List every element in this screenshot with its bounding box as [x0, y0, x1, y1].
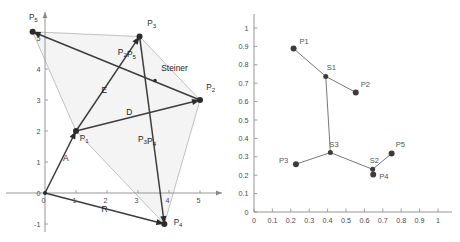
point-S3 [328, 150, 333, 155]
y-tick-label: 0.4 [239, 134, 249, 143]
y-axis-arrow [43, 12, 48, 18]
left-plot-panel: 012345012345-1 P2P5SteinerEDP3P4ARP1P2P3… [0, 0, 230, 242]
x-axis-arrow [216, 191, 222, 196]
label-steiner: Steiner [161, 63, 188, 73]
label-P4: P4 [174, 218, 183, 228]
x-tick-label: 0.1 [267, 216, 277, 225]
right-plot-panel: 00.10.20.30.40.50.60.70.80.9100.10.20.30… [230, 0, 460, 242]
label-d: D [126, 107, 132, 117]
x-tick-label: 0.6 [359, 216, 369, 225]
point-S2 [370, 167, 375, 172]
label-P2: P2 [361, 80, 370, 89]
point-P1 [73, 128, 79, 134]
x-tick-label: 0 [252, 216, 256, 225]
y-tick-label: -1 [34, 220, 40, 229]
left-plot-svg: 012345012345-1 P2P5SteinerEDP3P4ARP1P2P3… [0, 0, 230, 242]
point-P1 [291, 46, 297, 52]
label-a: A [63, 153, 69, 163]
right-axes [254, 14, 452, 212]
x-tick-label: 0.5 [341, 216, 351, 225]
x-tick-label: 4 [166, 196, 170, 205]
label-P5: P5 [396, 140, 405, 149]
label-P5: P5 [29, 13, 38, 23]
y-tick-label: 0.2 [239, 171, 249, 180]
label-P3: P3 [279, 156, 288, 165]
x-tick-label: 5 [197, 196, 201, 205]
point-P3 [293, 161, 299, 167]
right-point-labels: P1P2P3P4P5S1S2S3 [279, 37, 405, 182]
point-P3 [137, 33, 143, 39]
x-tick-label: 0.8 [396, 216, 406, 225]
vector-A [45, 131, 76, 193]
convex-hull-fill [33, 32, 200, 224]
tree-edge-S3-S2 [330, 153, 372, 170]
y-tick-label: 0 [245, 208, 249, 217]
label-P1: P1 [300, 37, 309, 46]
point-P4 [161, 221, 167, 227]
x-tick-label: 0.3 [304, 216, 314, 225]
tree-edge-P1-S1 [294, 49, 326, 77]
y-tick-label: 4 [37, 65, 41, 74]
label-r: R [101, 204, 107, 214]
x-tick-label: 0.2 [286, 216, 296, 225]
label-P4: P4 [379, 172, 388, 181]
steiner-point [153, 79, 156, 82]
tree-edge-S1-P2 [326, 76, 356, 92]
x-tick-label: 0.4 [323, 216, 333, 225]
x-tick-label: 1 [436, 216, 440, 225]
point-P2 [353, 89, 359, 95]
y-tick-label: 2 [37, 127, 41, 136]
label-S3: S3 [329, 140, 338, 149]
right-tick-labels: 00.10.20.30.40.50.60.70.80.9100.10.20.30… [239, 24, 441, 225]
x-tick-label: 2 [104, 196, 108, 205]
y-tick-label: 3 [37, 96, 41, 105]
x-tick-label: 0 [42, 196, 46, 205]
label-P3: P3 [147, 19, 156, 29]
x-tick-label: 0.7 [378, 216, 388, 225]
y-tick-label: 1 [37, 158, 41, 167]
origin-point [43, 191, 47, 195]
y-tick-label: 0.1 [239, 189, 249, 198]
right-plot-svg: 00.10.20.30.40.50.60.70.80.9100.10.20.30… [230, 0, 460, 242]
y-tick-label: 0.7 [239, 79, 249, 88]
label-e: E [101, 85, 107, 95]
y-tick-label: 0.9 [239, 42, 249, 51]
x-tick-label: 0.9 [415, 216, 425, 225]
x-tick-label: 3 [135, 196, 139, 205]
point-S1 [323, 74, 328, 79]
point-P5 [30, 29, 36, 35]
point-P5 [389, 150, 395, 156]
tree-edge-S3-P3 [296, 153, 330, 165]
y-tick-label: 0.6 [239, 97, 249, 106]
label-S1: S1 [327, 63, 336, 72]
y-tick-label: 0.3 [239, 152, 249, 161]
y-tick-label: 0 [37, 189, 41, 198]
label-P2: P2 [206, 83, 215, 93]
y-tick-label: 0.8 [239, 60, 249, 69]
label-S2: S2 [370, 156, 379, 165]
y-tick-label: 1 [245, 24, 249, 33]
point-P4 [370, 171, 376, 177]
y-tick-label: 0.5 [239, 116, 249, 125]
left-polygon-fill [33, 32, 200, 224]
point-P2 [197, 97, 203, 103]
steiner-tree-figure: 012345012345-1 P2P5SteinerEDP3P4ARP1P2P3… [0, 0, 460, 242]
